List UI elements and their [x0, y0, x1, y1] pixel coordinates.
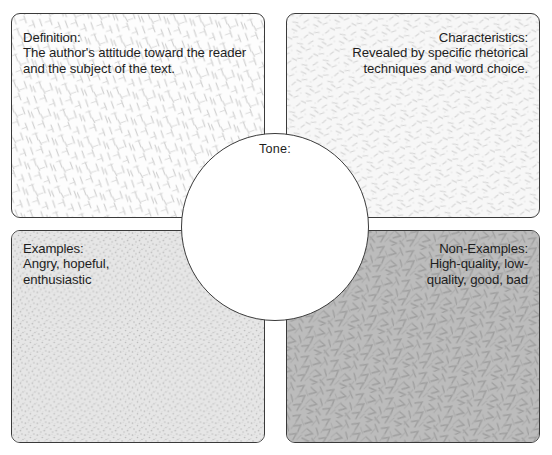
quadrant-non-examples-text: Non-Examples: High-quality, low- quality…	[363, 241, 528, 287]
center-term-circle[interactable]: Tone:	[181, 133, 369, 321]
quadrant-examples-text: Examples: Angry, hopeful, enthusiastic	[23, 241, 193, 287]
frayer-model-diagram: Definition: The author's attitude toward…	[0, 0, 552, 455]
quadrant-definition-text: Definition: The author's attitude toward…	[23, 30, 255, 76]
quadrant-characteristics-text: Characteristics: Revealed by specific rh…	[296, 30, 528, 76]
center-term-label: Tone:	[182, 142, 368, 156]
